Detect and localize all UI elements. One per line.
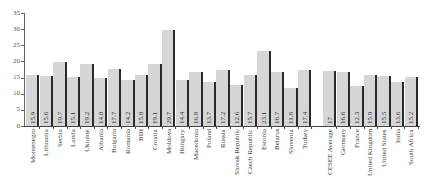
x-tick-mark — [243, 127, 244, 129]
x-tick-mark — [336, 127, 337, 129]
bar-value-label: 15.9 — [366, 112, 374, 124]
x-tick-mark — [350, 127, 351, 129]
bar-value-label: 19.1 — [151, 112, 159, 124]
category-label: Estonia — [260, 129, 268, 150]
x-tick-mark — [298, 127, 299, 129]
x-tick-mark — [284, 127, 285, 129]
x-tick-mark — [377, 127, 378, 129]
bar-value-label: 16.7 — [273, 112, 281, 124]
category-label: BIH — [137, 129, 145, 141]
x-tick-mark — [271, 127, 272, 129]
x-tick-mark — [121, 127, 122, 129]
y-tick-mark — [21, 45, 24, 46]
x-tick-mark — [230, 127, 231, 129]
x-tick-mark — [257, 127, 258, 129]
bar-value-label: 15.9 — [29, 112, 37, 124]
x-tick-mark — [148, 127, 149, 129]
category-label: Ukraine — [83, 129, 91, 152]
category-label: Serbia — [56, 129, 64, 147]
bar-value-label: 15.8 — [137, 112, 145, 124]
x-tick-mark — [135, 127, 136, 129]
x-tick-mark — [203, 127, 204, 129]
y-tick-label: 5 — [4, 106, 20, 113]
x-tick-mark — [80, 127, 81, 129]
category-label: Romania — [124, 129, 132, 154]
category-label: France — [353, 129, 361, 148]
x-tick-mark — [107, 127, 108, 129]
bar-value-label: 15.1 — [69, 112, 77, 124]
bar-value-label: 15.2 — [407, 112, 415, 124]
x-tick-mark — [189, 127, 190, 129]
bar-value-label: 17.4 — [301, 112, 309, 124]
category-label: Moldova — [165, 129, 173, 154]
bar-value-label: 29.7 — [165, 112, 173, 124]
x-tick-mark — [311, 127, 312, 129]
category-label: Croatia — [151, 129, 159, 150]
y-tick-label: 15 — [4, 74, 20, 81]
category-label: Hungary — [178, 130, 186, 155]
bar-value-label: 17.2 — [219, 112, 227, 124]
y-tick-mark — [21, 29, 24, 30]
category-label: Belarus — [273, 129, 281, 150]
category-label: Albania — [97, 129, 105, 151]
bar-value-label: 13.6 — [394, 112, 402, 124]
bar-value-label: 16.8 — [192, 112, 200, 124]
bar-value-label: 12.6 — [233, 112, 241, 124]
x-tick-mark — [404, 127, 405, 129]
bar-value-label: 16.6 — [339, 112, 347, 124]
y-tick-label: 20 — [4, 58, 20, 65]
y-axis-line — [24, 13, 25, 127]
bar-value-label: 11.8 — [287, 112, 295, 124]
category-label: Russia — [219, 129, 227, 148]
bar-value-label: 19.2 — [83, 112, 91, 124]
bar-value-label: 15.6 — [42, 112, 50, 124]
bar-value-label: 17.7 — [110, 112, 118, 124]
x-tick-mark — [67, 127, 68, 129]
category-label: Turkey — [301, 129, 309, 149]
category-label: Montenegro — [29, 129, 37, 163]
category-label: United States — [380, 129, 388, 167]
category-label: United Kingdom — [366, 129, 374, 176]
bar-value-label: 14.2 — [124, 112, 132, 124]
category-label: Czech Republic — [246, 129, 254, 174]
bar-value-label: 12.3 — [353, 112, 361, 124]
category-label: Macedonia — [192, 129, 200, 160]
category-label: India — [394, 129, 402, 143]
bar-chart: 0510152025303515.9Montenegro15.6Lithuani… — [0, 0, 432, 184]
bar-value-label: 13.7 — [205, 112, 213, 124]
bar-value-label: 15.7 — [246, 112, 254, 124]
y-tick-label: 0 — [4, 123, 20, 130]
y-tick-mark — [21, 61, 24, 62]
x-tick-mark — [364, 127, 365, 129]
bar-value-label: 14.8 — [97, 112, 105, 124]
bar-value-label: 17 — [326, 117, 334, 124]
bar-value-label: 19.7 — [56, 112, 64, 124]
category-label: Slovak Republic — [233, 129, 241, 175]
category-label: South Africa — [407, 129, 415, 165]
category-label: Slovenia — [287, 130, 295, 155]
y-tick-label: 10 — [4, 90, 20, 97]
category-label: Bulgaria — [110, 129, 118, 153]
x-tick-mark — [39, 127, 40, 129]
bar-value-label: 23.1 — [260, 112, 268, 124]
y-tick-label: 35 — [4, 10, 20, 17]
y-tick-label: 30 — [4, 26, 20, 33]
category-label: Lithuania — [42, 129, 50, 156]
x-tick-mark — [391, 127, 392, 129]
y-tick-mark — [21, 94, 24, 95]
category-label: Latvia — [69, 129, 77, 147]
x-tick-mark — [162, 127, 163, 129]
x-tick-mark — [94, 127, 95, 129]
x-tick-mark — [418, 127, 419, 129]
y-tick-mark — [21, 110, 24, 111]
bar-value-label: 14.4 — [178, 112, 186, 124]
x-tick-mark — [53, 127, 54, 129]
x-axis-line — [24, 126, 420, 127]
bar-value-label: 15.5 — [380, 112, 388, 124]
x-tick-mark — [175, 127, 176, 129]
category-label: Poland — [205, 129, 213, 148]
category-label: CESEE Average — [326, 129, 334, 175]
x-tick-mark — [216, 127, 217, 129]
y-tick-mark — [21, 13, 24, 14]
y-tick-mark — [21, 78, 24, 79]
